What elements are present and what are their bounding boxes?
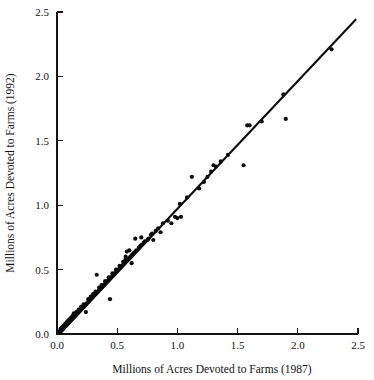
data-point [214,164,218,168]
data-point [84,310,88,314]
data-point [161,221,165,225]
data-point [209,170,213,174]
data-point [329,47,333,51]
data-point [146,237,150,241]
data-point [226,153,230,157]
data-point [166,219,170,223]
data-point [219,159,223,163]
y-tick-label: 1.5 [35,135,49,147]
data-point [95,273,99,277]
x-tick-label: 1.0 [171,339,185,351]
data-point [190,175,194,179]
y-tick-label: 1.0 [35,199,49,211]
data-point [139,235,143,239]
data-point [151,238,155,242]
data-point [197,186,201,190]
data-point [202,180,206,184]
data-point [178,202,182,206]
data-point [169,221,173,225]
x-tick-label: 0.0 [50,339,64,351]
data-point [248,123,252,127]
data-point [205,175,209,179]
data-point [281,92,285,96]
data-point [158,230,162,234]
scatter-plot: 0.00.51.01.52.02.5 0.00.51.01.52.02.5 Mi… [0,0,374,380]
x-tick-label: 0.5 [110,339,124,351]
data-point [242,163,246,167]
data-point [130,261,134,265]
y-axis-title: Millions of Acres Devoted to Farms (1992… [4,73,17,272]
data-point [175,216,179,220]
data-point [108,297,112,301]
data-point [284,117,288,121]
x-tick-label: 1.5 [231,339,245,351]
data-point [150,231,154,235]
y-tick-label: 2.5 [35,6,49,18]
data-point [179,215,183,219]
data-point [133,237,137,241]
x-axis-title: Millions of Acres Devoted to Farms (1987… [112,363,311,376]
y-tick-labels: 0.00.51.01.52.02.5 [35,6,49,340]
y-tick-label: 0.0 [35,328,49,340]
chart-figure: 0.00.51.01.52.02.5 0.00.51.01.52.02.5 Mi… [0,0,374,380]
x-tick-label: 2.5 [351,339,365,351]
data-point [185,195,189,199]
y-tick-label: 0.5 [35,264,49,276]
data-point [260,119,264,123]
y-tick-label: 2.0 [35,70,49,82]
x-tick-labels: 0.00.51.01.52.02.5 [50,339,365,351]
data-point [156,226,160,230]
data-point [127,248,131,252]
x-tick-label: 2.0 [291,339,305,351]
